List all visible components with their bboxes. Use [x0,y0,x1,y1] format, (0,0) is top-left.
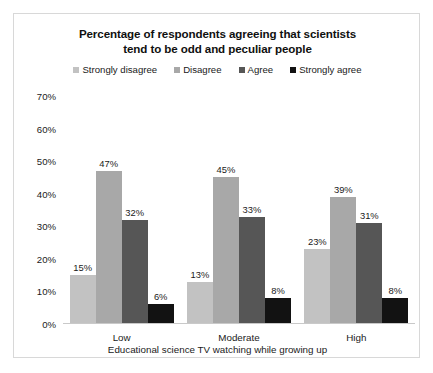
bar-value-label: 15% [73,262,92,273]
bar[interactable]: 8% [382,298,408,324]
chart-container: Percentage of respondents agreeing that … [13,13,420,358]
bar-slot: 39% [330,96,356,324]
bar[interactable]: 47% [96,171,122,324]
bar-set: 23%39%31%8% [304,96,408,324]
bar-group: 13%45%33%8%Moderate [187,96,291,324]
x-axis-line [63,323,415,324]
bar[interactable]: 32% [122,220,148,324]
bar-slot: 33% [239,96,265,324]
bar-value-label: 8% [271,285,285,296]
bar-slot: 31% [356,96,382,324]
chart-title-line-2: tend to be odd and peculiar people [34,41,401,56]
chart-title: Percentage of respondents agreeing that … [34,26,401,56]
bar-value-label: 6% [154,291,168,302]
bar-slot: 15% [70,96,96,324]
bar-group: 15%47%32%6%Low [70,96,174,324]
bar-value-label: 31% [360,210,379,221]
bar-group: 23%39%31%8%High [304,96,408,324]
chart-title-line-1: Percentage of respondents agreeing that … [79,27,356,40]
bar-value-label: 45% [217,164,236,175]
legend-label: Disagree [183,64,221,75]
legend-swatch-icon [174,67,180,73]
bar-slot: 23% [304,96,330,324]
bar[interactable]: 6% [148,304,174,324]
y-axis-tick-label: 20% [37,253,56,264]
bar-slot: 47% [96,96,122,324]
bar-value-label: 13% [191,269,210,280]
x-axis-category-label: Low [70,332,174,343]
bar-slot: 6% [148,96,174,324]
bar[interactable]: 23% [304,249,330,324]
bar-slot: 8% [265,96,291,324]
bar-value-label: 47% [99,158,118,169]
y-axis-tick-label: 70% [37,91,56,102]
y-axis-tick-label: 50% [37,156,56,167]
bar-value-label: 32% [125,207,144,218]
bar[interactable]: 33% [239,217,265,324]
bar-set: 15%47%32%6% [70,96,174,324]
legend-item-disagree: Disagree [174,64,221,75]
bar-value-label: 8% [389,285,403,296]
legend-item-agree: Agree [239,64,274,75]
bar-set: 13%45%33%8% [187,96,291,324]
bar[interactable]: 13% [187,282,213,324]
legend-label: Strongly disagree [82,64,157,75]
bar[interactable]: 45% [213,177,239,324]
chart-legend: Strongly disagree Disagree Agree Strongl… [34,64,401,75]
bar[interactable]: 31% [356,223,382,324]
legend-swatch-icon [73,67,79,73]
legend-item-strongly-agree: Strongly agree [290,64,361,75]
plot-area: 70%60%50%40%30%20%10%0% 15%47%32%6%Low13… [63,96,415,324]
legend-label: Strongly agree [299,64,361,75]
bar[interactable]: 8% [265,298,291,324]
bar[interactable]: 15% [70,275,96,324]
bar-value-label: 39% [334,184,353,195]
legend-swatch-icon [290,67,296,73]
bar-slot: 32% [122,96,148,324]
x-axis-category-label: Moderate [187,332,291,343]
x-axis-category-label: High [304,332,408,343]
bar[interactable]: 39% [330,197,356,324]
y-axis-tick-label: 10% [37,286,56,297]
legend-item-strongly-disagree: Strongly disagree [73,64,157,75]
bar-value-label: 23% [308,236,327,247]
bar-slot: 13% [187,96,213,324]
y-axis-tick-label: 60% [37,123,56,134]
bar-value-label: 33% [243,204,262,215]
bar-slot: 8% [382,96,408,324]
legend-swatch-icon [239,67,245,73]
y-axis-tick-label: 0% [42,319,56,330]
legend-label: Agree [248,64,274,75]
y-axis-tick-label: 40% [37,188,56,199]
bar-slot: 45% [213,96,239,324]
y-axis-tick-label: 30% [37,221,56,232]
x-axis-title: Educational science TV watching while gr… [34,344,401,355]
